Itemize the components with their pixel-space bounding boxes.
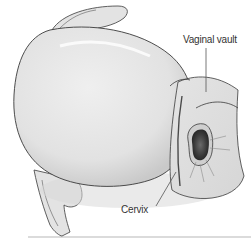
cervical-os — [192, 130, 209, 161]
cervix-label: Cervix — [121, 204, 148, 215]
vaginal-vault-label: Vaginal vault — [183, 34, 237, 45]
anatomy-diagram: Vaginal vault Cervix — [0, 0, 251, 243]
fallopian-tube-top — [52, 6, 127, 30]
uterus-body — [14, 27, 193, 186]
